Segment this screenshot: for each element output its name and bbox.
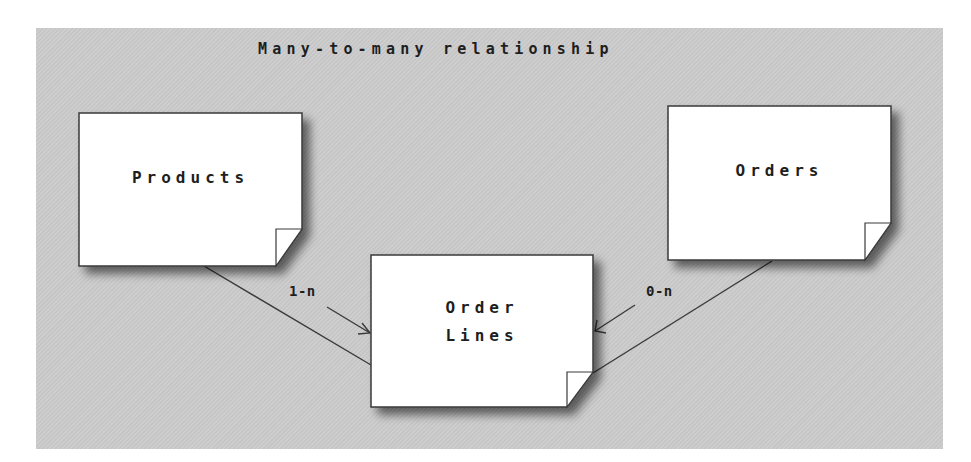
node-products-label: Products [79, 165, 302, 191]
connector-orders-orderlines [593, 261, 772, 373]
node-order-lines-label-line1: Order [371, 295, 593, 321]
arrow-0-n-icon [595, 305, 635, 333]
multiplicity-label-products: 1-n [289, 283, 316, 299]
diagram-graphics [0, 0, 971, 462]
node-orders-label: Orders [668, 158, 891, 184]
connector-products-orderlines [204, 266, 371, 365]
multiplicity-label-orders: 0-n [646, 283, 673, 299]
node-order-lines-label-line2: Lines [371, 323, 593, 349]
arrow-1-n-icon [327, 307, 370, 334]
